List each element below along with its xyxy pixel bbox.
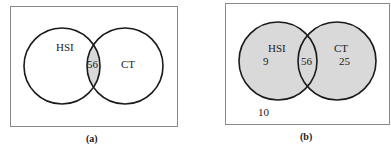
intersection-value-b: 56 xyxy=(301,55,313,67)
ct-label-b: CT xyxy=(334,42,348,54)
caption-a: (a) xyxy=(86,133,98,145)
panel-a: HSI CT 56 (a) xyxy=(11,7,178,146)
panel-b: HSI CT 9 56 25 10 (b) xyxy=(226,4,390,144)
caption-b: (b) xyxy=(300,131,312,143)
hsi-only-value-b: 9 xyxy=(263,55,269,67)
outside-value-b: 10 xyxy=(258,106,270,118)
ct-label-a: CT xyxy=(121,58,135,70)
hsi-label-a: HSI xyxy=(56,41,74,53)
hsi-label-b: HSI xyxy=(268,42,286,54)
ct-only-value-b: 25 xyxy=(339,55,351,67)
venn-diagram-figure: HSI CT 56 (a) HSI CT 9 56 25 10 (b) xyxy=(0,0,391,149)
intersection-value-a: 56 xyxy=(87,58,99,70)
